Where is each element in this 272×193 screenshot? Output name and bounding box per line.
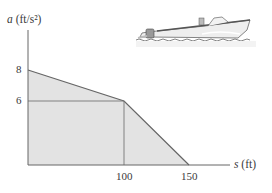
boat-illustration	[136, 17, 256, 47]
chart-canvas	[0, 0, 272, 193]
y-tick-8: 8	[16, 63, 22, 75]
x-tick-100: 100	[116, 170, 133, 182]
x-axis-label: s (ft)	[234, 158, 256, 170]
y-axis-label: a (ft/s²)	[7, 13, 41, 25]
area-fill	[28, 70, 189, 165]
x-tick-150: 150	[181, 170, 198, 182]
x-axis-unit: (ft)	[238, 158, 256, 170]
y-tick-6: 6	[16, 94, 22, 106]
y-axis-unit: (ft/s²)	[13, 13, 42, 25]
